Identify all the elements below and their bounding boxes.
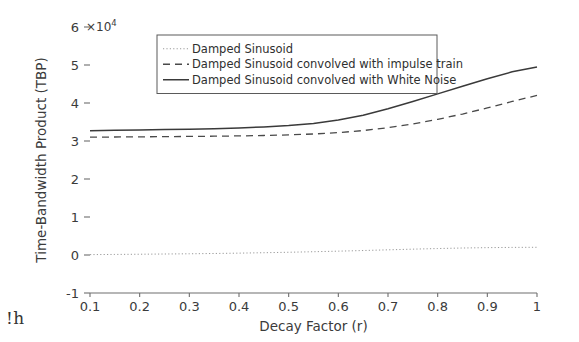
x-tick-label: 0.5: [278, 299, 299, 314]
legend-label-0[interactable]: Damped Sinusoid: [192, 42, 293, 56]
y-tick-label: 1: [71, 210, 79, 225]
y-tick-label: 2: [71, 172, 79, 187]
y-tick-label: 5: [71, 58, 79, 73]
figure-canvas: -101234560.10.20.30.40.50.60.70.80.91×10…: [0, 0, 579, 342]
legend-label-1[interactable]: Damped Sinusoid convolved with impulse t…: [192, 57, 463, 71]
y-tick-label: 0: [71, 248, 79, 263]
x-tick-label: 0.2: [129, 299, 150, 314]
bottom-left-artifact-text: !h: [6, 308, 25, 328]
y-tick-label: 4: [71, 96, 79, 111]
x-tick-label: 0.8: [427, 299, 448, 314]
x-tick-label: 0.4: [229, 299, 250, 314]
legend-label-2[interactable]: Damped Sinusoid convolved with White Noi…: [192, 73, 456, 87]
x-axis-title: Decay Factor (r): [259, 318, 367, 334]
x-tick-label: 0.9: [477, 299, 498, 314]
chart-legend[interactable]: Damped SinusoidDamped Sinusoid convolved…: [157, 35, 463, 94]
series-line-1: [90, 95, 537, 137]
data-series-group: [90, 67, 537, 255]
x-tick-label: 0.6: [328, 299, 349, 314]
x-tick-label: 0.3: [179, 299, 200, 314]
x-tick-label: 0.1: [80, 299, 101, 314]
y-axis-offset-text: ×104: [86, 18, 117, 34]
y-tick-label: -1: [66, 286, 79, 301]
y-axis-title: Time-Bandwidth Product (TBP): [33, 57, 49, 263]
x-tick-label: 0.7: [378, 299, 399, 314]
series-line-0: [90, 247, 537, 254]
y-tick-label: 6: [71, 20, 79, 35]
chart-svg: -101234560.10.20.30.40.50.60.70.80.91×10…: [0, 0, 579, 342]
x-tick-label: 1: [533, 299, 541, 314]
chart-figure: -101234560.10.20.30.40.50.60.70.80.91×10…: [0, 0, 579, 342]
y-tick-label: 3: [71, 134, 79, 149]
